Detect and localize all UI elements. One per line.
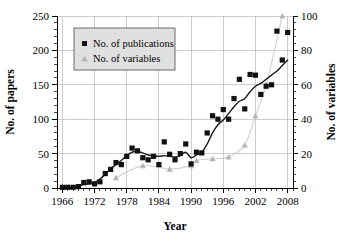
y-tick-label: 100 bbox=[33, 113, 50, 125]
data-point-publications bbox=[183, 141, 188, 146]
data-point-publications bbox=[124, 154, 129, 159]
data-point-publications bbox=[60, 185, 65, 190]
data-point-variables bbox=[113, 175, 119, 181]
data-point-publications bbox=[178, 151, 183, 156]
trend-line-publications bbox=[62, 60, 287, 187]
data-point-publications bbox=[194, 150, 199, 155]
data-point-publications bbox=[65, 185, 70, 190]
y-axis-secondary-title: No. of variables bbox=[325, 63, 337, 141]
data-point-publications bbox=[205, 130, 210, 135]
y2-tick-label: 0 bbox=[301, 182, 307, 194]
data-point-publications bbox=[258, 92, 263, 97]
y2-tick-label: 80 bbox=[301, 44, 313, 56]
chart-legend: No. of publications No. of variables bbox=[74, 28, 175, 70]
y-axis-left-ticks: 050100150200250 bbox=[33, 10, 58, 194]
y2-tick-label: 100 bbox=[301, 10, 318, 22]
data-point-variables bbox=[242, 142, 248, 148]
data-point-publications bbox=[97, 179, 102, 184]
data-point-publications bbox=[151, 154, 156, 159]
data-point-publications bbox=[221, 107, 226, 112]
y2-tick-label: 60 bbox=[301, 79, 313, 91]
data-point-publications bbox=[113, 160, 118, 165]
data-point-publications bbox=[87, 179, 92, 184]
y2-tick-label: 40 bbox=[301, 113, 313, 125]
data-point-variables bbox=[252, 113, 258, 119]
data-point-publications bbox=[280, 57, 285, 62]
data-point-publications bbox=[103, 171, 108, 176]
data-point-variables bbox=[226, 154, 232, 160]
y-axis-right-ticks: 020406080100 bbox=[293, 10, 318, 194]
data-point-publications bbox=[247, 72, 252, 77]
data-point-publications bbox=[119, 162, 124, 167]
x-tick-label: 2002 bbox=[244, 195, 266, 207]
data-point-publications bbox=[242, 106, 247, 111]
data-point-publications bbox=[188, 161, 193, 166]
data-point-publications bbox=[108, 167, 113, 172]
x-tick-label: 2008 bbox=[277, 195, 300, 207]
x-tick-label: 1990 bbox=[180, 195, 203, 207]
data-point-publications bbox=[226, 117, 231, 122]
publications-and-variables-chart: 19661972197819841990199620022008 0501001… bbox=[0, 0, 346, 237]
data-point-publications bbox=[231, 96, 236, 101]
y-tick-label: 200 bbox=[33, 44, 50, 56]
data-point-publications bbox=[140, 155, 145, 160]
x-tick-label: 1996 bbox=[212, 195, 235, 207]
x-axis-ticks: 19661972197819841990199620022008 bbox=[51, 188, 299, 207]
legend-label-publications: No. of publications bbox=[93, 38, 174, 49]
y2-tick-label: 20 bbox=[301, 148, 313, 160]
data-point-publications bbox=[70, 185, 75, 190]
x-axis-title: Year bbox=[164, 220, 187, 232]
data-point-publications bbox=[135, 148, 140, 153]
y-tick-label: 150 bbox=[33, 79, 50, 91]
y-tick-label: 50 bbox=[38, 148, 50, 160]
data-point-publications bbox=[129, 146, 134, 151]
x-tick-label: 1972 bbox=[84, 195, 106, 207]
data-point-publications bbox=[199, 150, 204, 155]
data-point-publications bbox=[156, 162, 161, 167]
publications-trend bbox=[62, 60, 287, 187]
data-point-publications bbox=[162, 139, 167, 144]
x-tick-label: 1978 bbox=[116, 195, 139, 207]
data-point-publications bbox=[146, 157, 151, 162]
data-point-publications bbox=[215, 117, 220, 122]
data-point-publications bbox=[269, 82, 274, 87]
data-point-publications bbox=[92, 181, 97, 186]
data-point-publications bbox=[253, 73, 258, 78]
data-point-publications bbox=[285, 30, 290, 35]
y-tick-label: 0 bbox=[44, 182, 50, 194]
data-point-publications bbox=[264, 84, 269, 89]
data-point-publications bbox=[172, 157, 177, 162]
x-tick-label: 1984 bbox=[148, 195, 171, 207]
data-point-publications bbox=[210, 113, 215, 118]
data-point-publications bbox=[274, 29, 279, 34]
y-tick-label: 250 bbox=[33, 10, 50, 22]
data-point-publications bbox=[237, 77, 242, 82]
legend-marker-publications bbox=[82, 41, 87, 46]
data-point-publications bbox=[76, 184, 81, 189]
data-point-publications bbox=[81, 180, 86, 185]
legend-label-variables: No. of variables bbox=[93, 53, 160, 64]
chart-figure: 19661972197819841990199620022008 0501001… bbox=[0, 0, 346, 237]
y-axis-title: No. of papers bbox=[4, 69, 17, 135]
data-point-publications bbox=[167, 152, 172, 157]
x-tick-label: 1966 bbox=[51, 195, 74, 207]
